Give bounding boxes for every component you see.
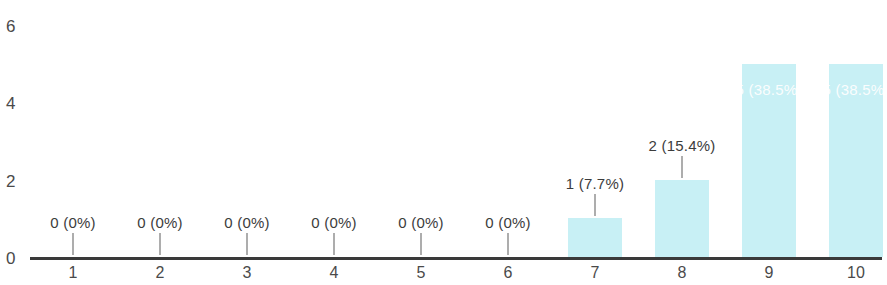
x-tick-label-8: 8 [677,265,686,281]
x-tick-label-3: 3 [242,265,251,281]
bar-value-label: 1 (7.7%) [566,176,624,191]
bar-value-label: 0 (0%) [137,215,182,230]
bar[interactable] [568,218,622,257]
bar[interactable] [655,180,709,257]
label-leader-line [160,233,161,255]
bar-value-label: 5 (38.5%) [736,82,803,97]
x-tick-label-9: 9 [764,265,773,281]
bar-value-label: 2 (15.4%) [649,138,716,153]
bar-value-label: 0 (0%) [50,215,95,230]
bar-value-label: 0 (0%) [224,215,269,230]
label-leader-line [247,233,248,255]
label-leader-line [508,233,509,255]
bar-group[interactable]: 5 (38.5%) [796,0,887,285]
x-tick-label-6: 6 [503,265,512,281]
x-axis-line [30,257,882,260]
x-tick-label-5: 5 [416,265,425,281]
bar-value-label: 0 (0%) [398,215,443,230]
bar-value-label: 5 (38.5%) [823,82,887,97]
label-leader-line [682,156,683,178]
x-tick-label-4: 4 [329,265,338,281]
x-tick-label-7: 7 [590,265,599,281]
label-leader-line [595,194,596,216]
label-leader-line [73,233,74,255]
label-leader-line [334,233,335,255]
bar-value-label: 0 (0%) [311,215,356,230]
x-tick-label-1: 1 [68,265,77,281]
x-tick-label-2: 2 [155,265,164,281]
x-tick-label-10: 10 [847,265,865,281]
label-leader-line [421,233,422,255]
bar-value-label: 0 (0%) [485,215,530,230]
